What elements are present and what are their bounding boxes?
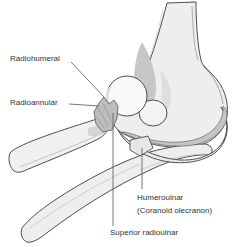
label-humeroulnar-line2: (Coranoid olecranon) xyxy=(137,204,212,217)
label-radioannular: Radioannular xyxy=(10,98,58,108)
label-superior-radioulnar: Superior radioulnar xyxy=(110,228,178,238)
leader-line-radioannular xyxy=(69,104,99,106)
radius-shape xyxy=(9,115,109,172)
elbow-joint-diagram: Radiohumeral Radioannular Humeroulnar (C… xyxy=(0,0,236,247)
label-humeroulnar-line1: Humeroulnar xyxy=(137,191,212,204)
humerus-shape xyxy=(111,2,228,148)
leader-line-radiohumeral xyxy=(71,62,104,97)
label-humeroulnar: Humeroulnar (Coranoid olecranon) xyxy=(137,191,212,217)
label-radiohumeral: Radiohumeral xyxy=(10,54,60,64)
